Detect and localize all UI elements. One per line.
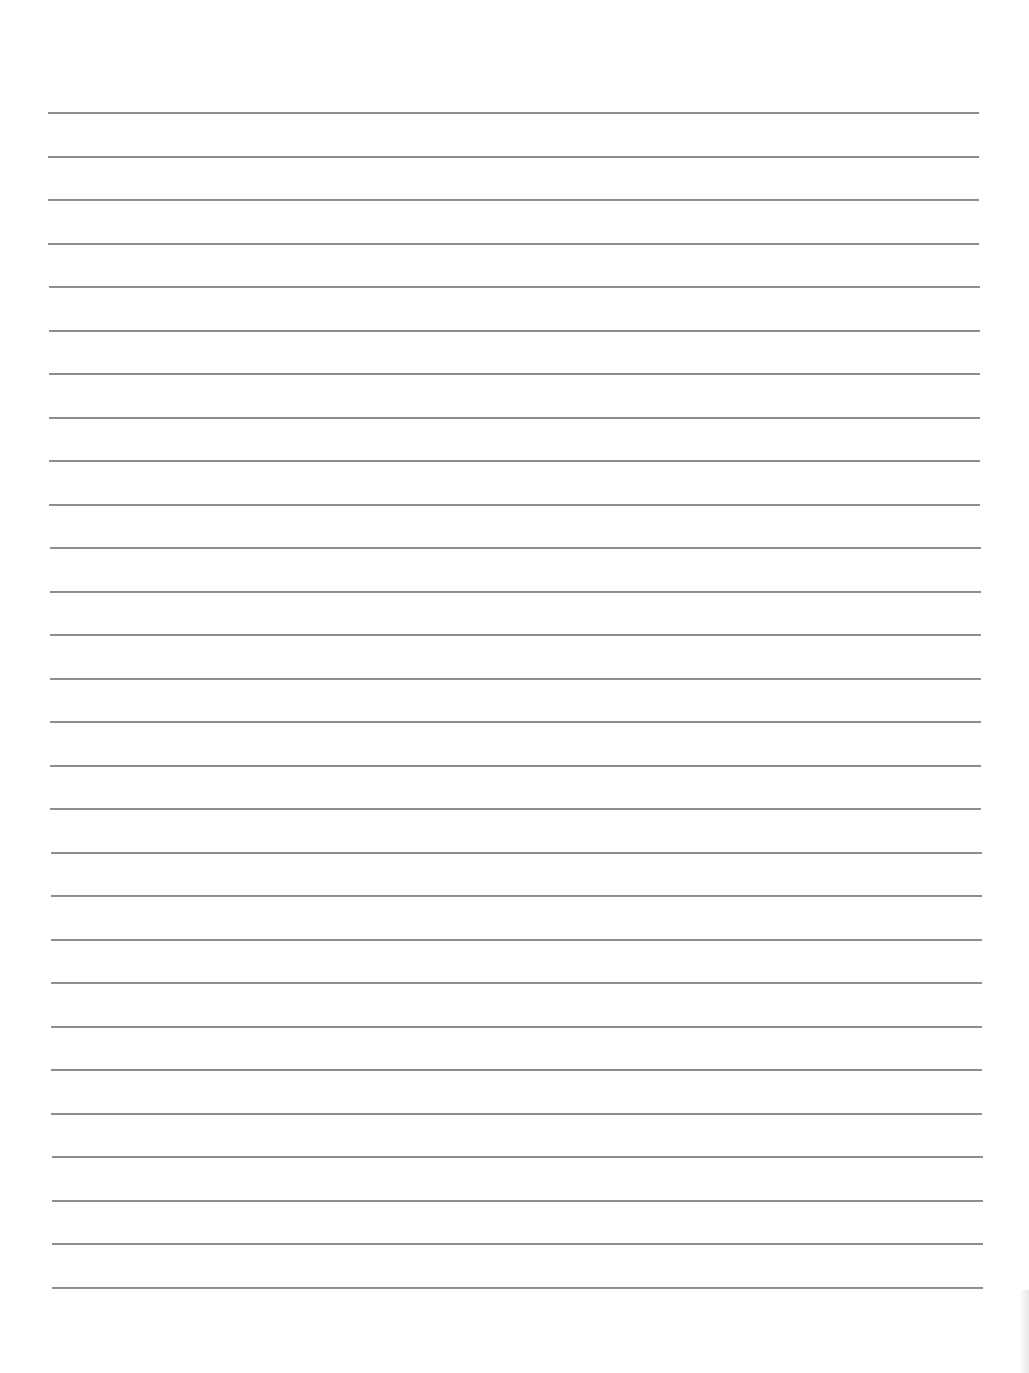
- ruled-line: [49, 504, 980, 506]
- ruled-line: [49, 330, 980, 332]
- ruled-line: [50, 591, 981, 593]
- ruled-line: [52, 1156, 983, 1158]
- ruled-line: [48, 243, 979, 245]
- ruled-line: [50, 547, 981, 549]
- ruled-line: [50, 808, 981, 810]
- ruled-line: [49, 417, 980, 419]
- ruled-line: [50, 678, 981, 680]
- ruled-line: [50, 721, 981, 723]
- ruled-line: [50, 634, 981, 636]
- ruled-line: [49, 286, 980, 288]
- ruled-line: [50, 765, 981, 767]
- ruled-line: [52, 1200, 983, 1202]
- ruled-line: [48, 112, 979, 114]
- scan-edge-shadow: [1019, 1290, 1029, 1373]
- ruled-line: [51, 939, 982, 941]
- ruled-line: [52, 1243, 983, 1245]
- ruled-line: [49, 373, 980, 375]
- ruled-line: [51, 895, 982, 897]
- ruled-line: [49, 460, 980, 462]
- ruled-line: [51, 852, 982, 854]
- ruled-line: [51, 1026, 982, 1028]
- ruled-line: [51, 982, 982, 984]
- lined-paper-page: [0, 0, 1029, 1373]
- ruled-line: [48, 156, 979, 158]
- ruled-line: [51, 1113, 982, 1115]
- ruled-line: [48, 199, 979, 201]
- ruled-line: [52, 1287, 983, 1289]
- ruled-line: [51, 1069, 982, 1071]
